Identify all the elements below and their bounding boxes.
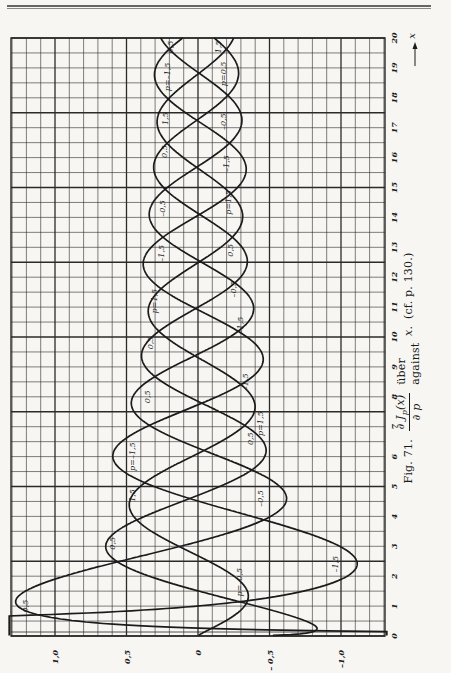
curve-labels: 0,5p=–0,5–1,50,5–0,51,5p=–1,50,5p=1,50,5… — [21, 41, 340, 613]
arrow-head-icon — [413, 42, 418, 49]
word-german: über — [395, 343, 409, 385]
curve-label: 1,5 — [128, 489, 137, 502]
curve-label: –1,5 — [241, 373, 250, 390]
formula-words: über against — [395, 343, 423, 385]
curve-label: –0,5 — [257, 490, 266, 507]
x-tick-label: 15 — [389, 182, 399, 194]
formula-subscript: p — [400, 410, 409, 415]
curve-label: p=–1,5 — [128, 442, 137, 471]
x-tick-label: 1 — [389, 603, 399, 609]
formula-argument: (x) — [394, 395, 407, 410]
curve-label: –0,5 — [219, 113, 228, 130]
curve-label: p=1,5 — [224, 190, 233, 215]
curve-label: 1,5 — [161, 112, 170, 125]
y-tick-label: 0 — [193, 650, 203, 656]
curve-label: –1,5 — [236, 317, 245, 334]
formula: ∂ Jp(x) ∂ p — [394, 393, 423, 432]
x-axis-label: x — [406, 33, 417, 39]
x-tick-label: 19 — [389, 62, 399, 74]
curve-label: p=1,5 — [257, 411, 266, 436]
y-tick-label: – 0,5 — [265, 650, 275, 671]
curve-label: p=–0,5 — [235, 568, 244, 597]
word-english: against — [409, 343, 423, 385]
curve-label: p=–1,5 — [163, 63, 172, 92]
curve-label: –1,5 — [157, 245, 166, 262]
x-axis-arrow: x — [406, 33, 418, 66]
figure-caption: Fig. 71. ∂ Jp(x) ∂ p über against x. (cf… — [372, 218, 432, 518]
y-tick-label: –1,0 — [336, 650, 346, 668]
x-tick-label: 0 — [389, 633, 399, 639]
curve-label: p=0,5 — [219, 62, 228, 87]
curve-label: –1,5 — [222, 155, 231, 172]
curve-label: –1,5 — [331, 556, 340, 573]
curve-label: –0,5 — [158, 200, 167, 217]
x-tick-label: 20 — [389, 32, 399, 45]
formula-denominator: ∂ p — [410, 393, 423, 432]
curve-label: –0,5 — [229, 281, 238, 298]
curve-label: p=1,5 — [150, 289, 159, 314]
x-tick-label: 17 — [389, 122, 399, 134]
curve-label: 0,5 — [108, 537, 117, 550]
curve-label: 0,5 — [166, 41, 175, 54]
y-tick-label: 1,0 — [50, 650, 60, 664]
curve-label: 0,5 — [226, 244, 235, 257]
curve-label: 0,5 — [160, 145, 169, 158]
curve-label: 0,5 — [21, 600, 30, 613]
formula-numerator: ∂ J — [394, 415, 407, 429]
curve-label: 0,5 — [143, 390, 152, 403]
caption-reference: (cf. p. 130.) — [402, 253, 415, 320]
y-axis-tick-labels: 1,00,50– 0,5–1,0 — [50, 650, 346, 671]
curve-label: 1,5 — [214, 41, 223, 54]
x-tick-label: 2 — [389, 573, 399, 580]
x-tick-label: 16 — [389, 152, 399, 164]
caption-variable: x. — [402, 326, 415, 336]
curve-label: 0,5 — [146, 337, 155, 350]
fig-label: Fig. 71. — [402, 439, 415, 483]
x-tick-label: 18 — [389, 92, 399, 104]
grid — [11, 38, 385, 636]
curve-label: 0,5 — [246, 432, 255, 445]
y-tick-label: 0,5 — [122, 650, 132, 664]
x-tick-label: 3 — [389, 543, 399, 549]
